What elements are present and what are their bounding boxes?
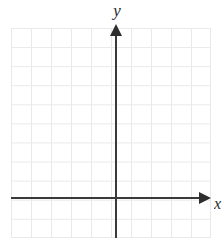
x-axis-label: x <box>214 195 224 213</box>
coordinate-plane-figure: y x <box>0 0 224 246</box>
x-axis-line <box>11 197 201 199</box>
y-axis-label: y <box>106 1 128 21</box>
y-axis-arrowhead-icon <box>110 24 122 36</box>
y-axis-line <box>115 34 117 238</box>
grid-outline <box>11 28 211 238</box>
x-axis-arrowhead-icon <box>199 192 211 204</box>
